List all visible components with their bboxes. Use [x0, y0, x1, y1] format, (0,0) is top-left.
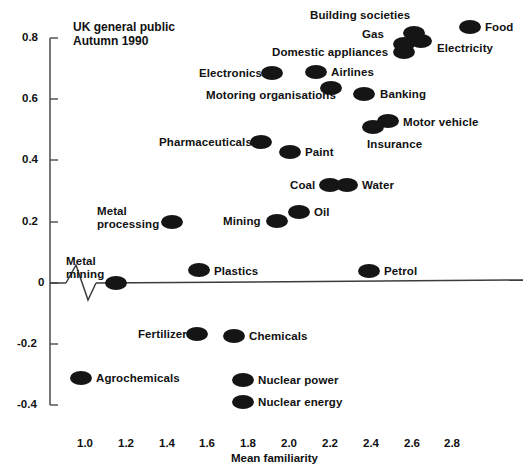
point-label-nuclear-power: Nuclear power: [258, 374, 339, 386]
point-label-water: Water: [362, 179, 394, 191]
marker-metal-processing: [161, 215, 183, 229]
y-axis-ticks: [50, 38, 58, 405]
x-tick-label-5: 2.0: [281, 437, 297, 449]
x-tick-label-7: 2.4: [363, 437, 379, 449]
point-label-metal-processing-line1: Metal: [97, 205, 159, 218]
point-label-metal-processing: Metal processing: [97, 205, 159, 231]
annotation-line-2: Autumn 1990: [73, 34, 175, 48]
x-tick-label-9: 2.8: [444, 437, 460, 449]
point-label-metal-mining: Metal mining: [66, 255, 104, 281]
point-label-metal-processing-line2: processing: [97, 218, 159, 231]
x-axis-title: Mean familiarity: [231, 452, 318, 464]
point-label-mining: Mining: [223, 215, 261, 227]
point-label-chemicals: Chemicals: [249, 330, 307, 342]
x-tick-label-8: 2.6: [404, 437, 420, 449]
marker-chemicals: [223, 329, 245, 343]
y-tick-label-0: 0.8: [22, 31, 38, 43]
point-label-electricity: Electricity: [437, 42, 493, 54]
marker-agrochemicals: [70, 371, 92, 385]
y-tick-label-6: -0.4: [17, 398, 37, 410]
point-label-gas: Gas: [362, 28, 384, 40]
marker-pharmaceuticals: [250, 135, 272, 149]
point-label-building-societies: Building societies: [310, 9, 410, 21]
marker-electronics: [261, 66, 283, 80]
marker-fertilizer: [186, 327, 208, 341]
point-label-agrochemicals: Agrochemicals: [96, 372, 180, 384]
x-tick-label-6: 2.2: [322, 437, 338, 449]
y-tick-label-2: 0.4: [22, 153, 38, 165]
y-tick-label-4: 0: [38, 276, 44, 288]
point-label-nuclear-energy: Nuclear energy: [258, 396, 343, 408]
marker-plastics: [188, 263, 210, 277]
y-tick-label-3: 0.2: [22, 215, 38, 227]
marker-petrol: [358, 264, 380, 278]
point-label-pharmaceuticals: Pharmaceuticals: [159, 136, 252, 148]
marker-mining: [266, 214, 288, 228]
point-label-metal-mining-line2: mining: [66, 268, 104, 281]
point-label-oil: Oil: [314, 206, 330, 218]
marker-nuclear-energy: [232, 395, 254, 409]
marker-food: [459, 20, 481, 34]
marker-airlines: [305, 65, 327, 79]
point-label-metal-mining-line1: Metal: [66, 255, 104, 268]
point-label-electronics: Electronics: [199, 67, 262, 79]
x-tick-label-4: 1.8: [240, 437, 256, 449]
x-tick-label-0: 1.0: [77, 437, 93, 449]
x-tick-label-3: 1.6: [199, 437, 215, 449]
point-label-motoring-organisations: Motoring organisations: [206, 89, 336, 101]
x-tick-label-2: 1.4: [159, 437, 175, 449]
scatter-plot-figure: UK general public Autumn 1990 0.8 0.6 0.…: [0, 0, 531, 473]
marker-electricity: [410, 34, 432, 48]
marker-metal-mining: [105, 276, 127, 290]
point-label-petrol: Petrol: [384, 265, 417, 277]
marker-paint: [279, 145, 301, 159]
point-label-domestic-appliances: Domestic appliances: [272, 46, 388, 58]
y-tick-label-5: -0.2: [17, 337, 37, 349]
point-label-plastics: Plastics: [214, 265, 258, 277]
point-label-coal: Coal: [290, 179, 315, 191]
point-label-banking: Banking: [380, 88, 426, 100]
point-label-food: Food: [485, 21, 514, 33]
marker-water: [336, 178, 358, 192]
marker-banking: [353, 87, 375, 101]
point-label-fertilizer: Fertilizer: [138, 328, 187, 340]
marker-nuclear-power: [232, 373, 254, 387]
point-label-motor-vehicle: Motor vehicle: [403, 116, 478, 128]
marker-domestic-appliances: [393, 45, 415, 59]
marker-oil: [288, 205, 310, 219]
marker-insurance: [362, 120, 384, 134]
y-tick-label-1: 0.6: [22, 92, 38, 104]
point-label-insurance: Insurance: [367, 138, 422, 150]
chart-annotation: UK general public Autumn 1990: [73, 20, 175, 48]
point-label-airlines: Airlines: [331, 66, 374, 78]
annotation-line-1: UK general public: [73, 20, 175, 34]
x-tick-label-1: 1.2: [118, 437, 134, 449]
point-label-paint: Paint: [305, 146, 334, 158]
